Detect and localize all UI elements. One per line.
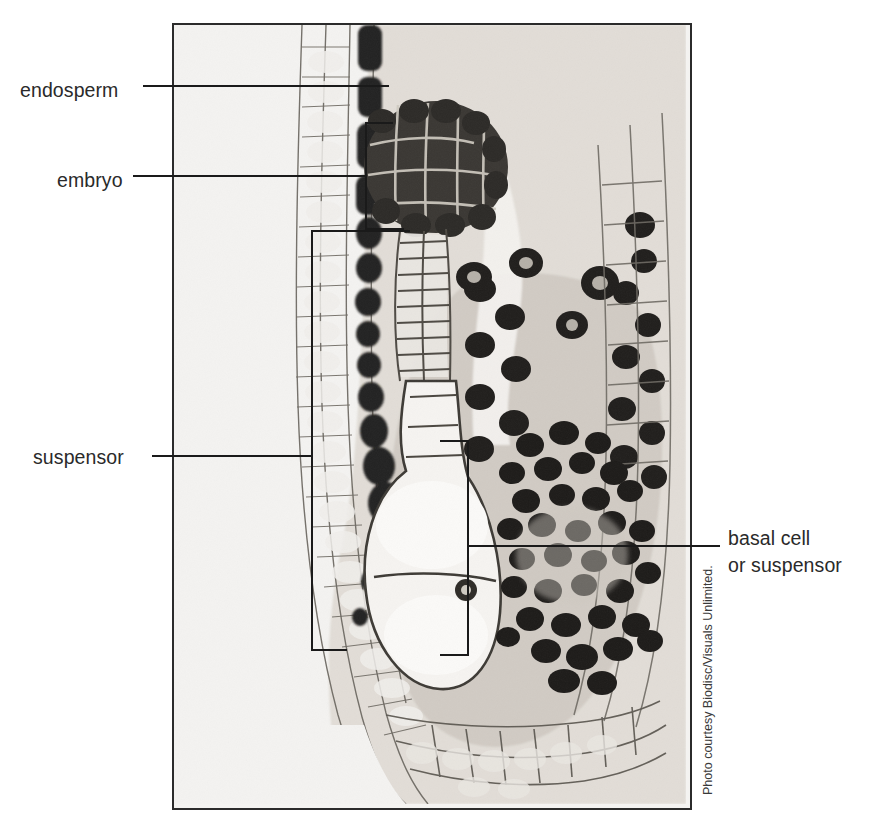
leader-line-embryo bbox=[133, 175, 367, 177]
label-suspensor: suspensor bbox=[33, 445, 124, 470]
bracket-suspensor-vertical bbox=[311, 230, 313, 651]
leader-line-endosperm bbox=[143, 85, 389, 87]
label-endosperm: endosperm bbox=[20, 78, 118, 103]
bracket-embryo-top-cap bbox=[365, 122, 393, 124]
label-basal-cell: basal cell or suspensor bbox=[728, 525, 876, 579]
label-embryo: embryo bbox=[57, 168, 123, 193]
label-basal-cell-line1: basal cell bbox=[728, 527, 810, 549]
micrograph-image bbox=[172, 23, 692, 810]
bracket-suspensor-top-cap bbox=[311, 230, 410, 232]
label-basal-cell-line2: or suspensor bbox=[728, 554, 842, 576]
bracket-basal-cell-vertical bbox=[467, 440, 469, 656]
photo-credit-text: Photo courtesy Biodisc/Visuals Unlimited… bbox=[701, 555, 715, 795]
leader-line-basal-cell bbox=[468, 545, 720, 547]
photo-credit: Photo courtesy Biodisc/Visuals Unlimited… bbox=[701, 323, 715, 563]
figure-labeled-micrograph: endosperm embryo suspensor basal cell or… bbox=[0, 0, 876, 836]
bracket-basal-cell-bottom-cap bbox=[440, 654, 469, 656]
bracket-embryo-vertical bbox=[365, 122, 367, 230]
micrograph-svg bbox=[174, 25, 686, 804]
leader-line-suspensor bbox=[152, 455, 313, 457]
bracket-basal-cell-top-cap bbox=[440, 440, 469, 442]
bracket-suspensor-bottom-cap bbox=[311, 649, 347, 651]
